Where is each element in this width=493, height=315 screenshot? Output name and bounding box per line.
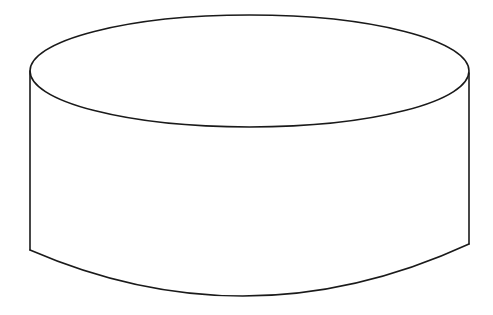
cylinder-bottom-arc xyxy=(30,244,469,296)
cylinder-top-ellipse xyxy=(30,15,469,127)
cylinder-diagram xyxy=(0,0,493,315)
